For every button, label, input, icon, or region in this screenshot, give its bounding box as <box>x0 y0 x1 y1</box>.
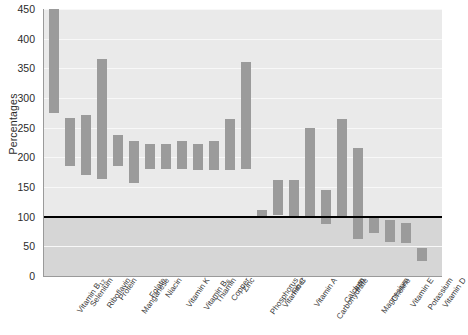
bar <box>385 220 395 242</box>
bar <box>353 148 363 239</box>
bar <box>225 119 235 171</box>
bar <box>81 115 91 176</box>
bar <box>369 217 379 234</box>
y-axis-tick: 350 <box>17 62 35 74</box>
bar <box>417 248 427 262</box>
bar <box>65 118 75 167</box>
gridline <box>44 9 442 10</box>
y-axis-tick-labels: 050100150200250300350400450 <box>0 0 40 335</box>
y-axis-tick: 150 <box>17 181 35 193</box>
y-axis-tick: 400 <box>17 33 35 45</box>
bar <box>241 62 251 169</box>
gridline <box>44 187 442 188</box>
bar <box>49 9 59 113</box>
gridline <box>44 246 442 247</box>
y-axis-tick: 250 <box>17 122 35 134</box>
bar <box>145 144 155 169</box>
bar <box>113 135 123 166</box>
bar <box>129 141 139 183</box>
gridline <box>44 39 442 40</box>
reference-line-100-percent <box>44 216 442 219</box>
y-axis-tick: 300 <box>17 92 35 104</box>
bar <box>177 141 187 169</box>
y-axis-tick: 450 <box>17 3 35 15</box>
bar <box>193 144 203 170</box>
bar <box>161 144 171 169</box>
bar <box>273 180 283 216</box>
bar <box>209 141 219 171</box>
y-axis-tick: 0 <box>29 270 35 282</box>
bar <box>321 190 331 224</box>
bar <box>401 223 411 244</box>
x-axis-category-labels: Vitamin B12SeleniumRiboflavinProteinMang… <box>43 276 443 335</box>
x-axis-tick: Vitamin A <box>313 276 340 309</box>
bar <box>305 128 315 217</box>
plot-area <box>43 9 442 277</box>
bar <box>337 119 347 217</box>
y-axis-tick: 100 <box>17 211 35 223</box>
bar <box>289 180 299 217</box>
y-axis-tick: 200 <box>17 151 35 163</box>
bar <box>97 59 107 179</box>
y-axis-tick: 50 <box>23 240 35 252</box>
